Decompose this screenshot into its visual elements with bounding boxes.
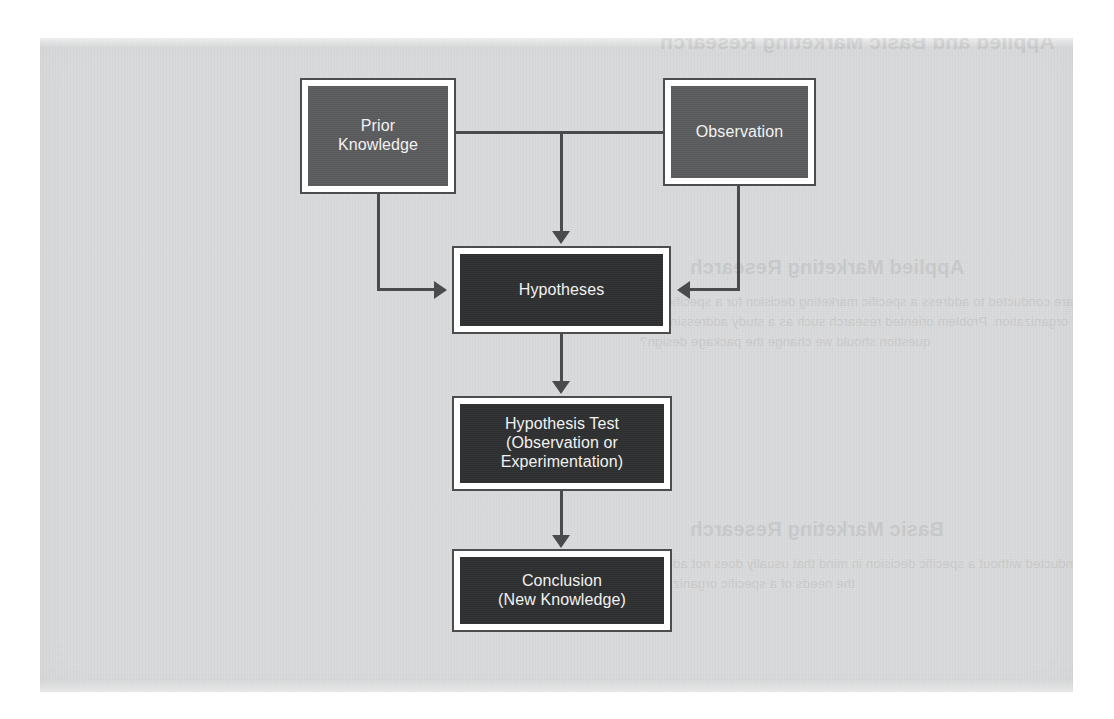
arrowhead-down-to-hypothesis-test: [552, 381, 570, 394]
node-observation-label: Observation: [696, 123, 783, 142]
node-conclusion-line1: Conclusion: [522, 572, 602, 589]
node-hypothesis-test: Hypothesis Test (Observation or Experime…: [452, 396, 672, 491]
node-prior-knowledge-inner: Prior Knowledge: [308, 86, 448, 186]
connector-observation-across: [690, 288, 740, 291]
node-prior-knowledge-label: Prior Knowledge: [338, 117, 418, 155]
screenshot-root: Applied and Basic Marketing Research App…: [0, 0, 1114, 719]
connector-prior-knowledge-across: [377, 288, 435, 291]
node-hypothesis-test-label: Hypothesis Test (Observation or Experime…: [501, 415, 624, 472]
node-conclusion-line2: (New Knowledge): [498, 591, 626, 608]
arrowhead-down-to-conclusion: [552, 535, 570, 548]
connector-hypothesis-test-to-conclusion: [560, 491, 563, 536]
arrowhead-down-to-hypotheses: [552, 231, 570, 244]
node-prior-knowledge-line1: Prior: [361, 117, 395, 134]
node-prior-knowledge-line2: Knowledge: [338, 136, 418, 153]
node-hypothesis-test-line2: (Observation or: [506, 434, 618, 451]
connector-center-drop-to-hypotheses: [560, 131, 563, 233]
arrowhead-left-to-hypotheses: [677, 281, 690, 299]
connector-prior-knowledge-drop: [377, 194, 380, 290]
node-hypothesis-test-inner: Hypothesis Test (Observation or Experime…: [460, 404, 664, 483]
node-hypotheses: Hypotheses: [452, 246, 671, 334]
node-hypothesis-test-line1: Hypothesis Test: [505, 415, 619, 432]
node-hypothesis-test-line3: Experimentation): [501, 453, 624, 470]
node-prior-knowledge: Prior Knowledge: [300, 78, 456, 194]
connector-observation-drop: [737, 186, 740, 290]
node-observation-inner: Observation: [671, 86, 808, 178]
connector-hypotheses-to-hypothesis-test: [560, 334, 563, 382]
node-conclusion-inner: Conclusion (New Knowledge): [460, 557, 664, 624]
node-hypotheses-inner: Hypotheses: [460, 254, 663, 326]
arrowhead-right-to-hypotheses: [434, 281, 447, 299]
node-conclusion: Conclusion (New Knowledge): [452, 549, 672, 632]
flow-diagram: Prior Knowledge Observation Hypotheses H…: [0, 0, 1114, 719]
node-hypotheses-label: Hypotheses: [519, 281, 605, 300]
node-observation: Observation: [663, 78, 816, 186]
node-conclusion-label: Conclusion (New Knowledge): [498, 572, 626, 610]
